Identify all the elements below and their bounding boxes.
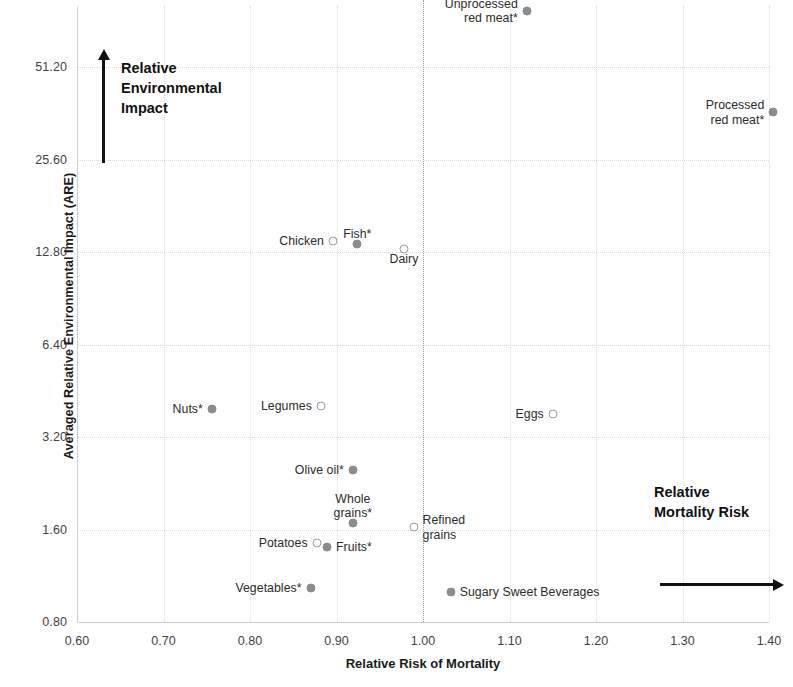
data-point-label: Unprocessed red meat* — [445, 0, 518, 25]
x-axis-tick-label: 0.70 — [129, 634, 199, 648]
gridline-vertical — [683, 6, 684, 622]
data-point-label: Fish* — [343, 227, 371, 242]
data-point-marker[interactable] — [522, 6, 531, 15]
environmental-impact-arrow-icon — [102, 58, 105, 163]
y-axis-tick-label: 3.20 — [5, 430, 67, 444]
data-point-label: Dairy — [390, 252, 419, 267]
data-point-label: Whole grains* — [334, 491, 373, 520]
x-axis-tick-label: 0.60 — [42, 634, 112, 648]
data-point-label: Olive oil* — [295, 463, 344, 478]
data-point-marker[interactable] — [323, 543, 332, 552]
environmental-impact-annotation: Relative Environmental Impact — [121, 58, 222, 118]
gridline-vertical — [510, 6, 511, 622]
y-axis-title: Averaged Relative Environmental Impact (… — [62, 173, 76, 460]
x-axis-tick-label: 0.90 — [302, 634, 372, 648]
y-axis-tick-label: 25.60 — [5, 153, 67, 167]
data-point-marker[interactable] — [306, 584, 315, 593]
x-axis-tick-label: 1.20 — [561, 634, 631, 648]
y-axis-tick-label: 12.80 — [5, 245, 67, 259]
data-point-marker[interactable] — [312, 538, 321, 547]
plot-area: Unprocessed red meat*Processed red meat*… — [77, 6, 769, 622]
gridline-vertical — [769, 6, 770, 622]
gridline-vertical — [77, 6, 78, 622]
x-axis-tick-label: 0.80 — [215, 634, 285, 648]
data-point-label: Potatoes — [259, 535, 308, 550]
x-axis-tick-label: 1.10 — [475, 634, 545, 648]
scatter-chart: Unprocessed red meat*Processed red meat*… — [0, 0, 793, 687]
data-point-label: Legumes — [261, 398, 312, 413]
mortality-risk-arrow-icon — [660, 583, 775, 586]
gridline-vertical — [596, 6, 597, 622]
mortality-risk-annotation: Relative Mortality Risk — [654, 482, 749, 522]
data-point-marker[interactable] — [548, 410, 557, 419]
data-point-label: Chicken — [279, 234, 324, 249]
x-axis-tick-label: 1.30 — [648, 634, 718, 648]
y-axis-tick-label: 0.80 — [5, 615, 67, 629]
data-point-marker[interactable] — [348, 465, 357, 474]
y-axis-tick-label: 1.60 — [5, 523, 67, 537]
gridline-vertical — [337, 6, 338, 622]
data-point-label: Fruits* — [336, 540, 372, 555]
y-axis-tick-label: 6.40 — [5, 338, 67, 352]
data-point-label: Refined grains — [423, 513, 466, 542]
data-point-marker[interactable] — [207, 404, 216, 413]
gridline-vertical — [250, 6, 251, 622]
x-axis-title: Relative Risk of Mortality — [77, 656, 769, 671]
data-point-label: Eggs — [516, 407, 544, 422]
data-point-label: Processed red meat* — [706, 98, 765, 127]
data-point-marker[interactable] — [316, 401, 325, 410]
data-point-label: Nuts* — [173, 402, 203, 417]
gridline-horizontal — [77, 622, 769, 623]
y-axis-tick-label: 51.20 — [5, 60, 67, 74]
data-point-marker[interactable] — [446, 588, 455, 597]
data-point-label: Sugary Sweet Beverages — [460, 585, 600, 600]
data-point-marker[interactable] — [409, 523, 418, 532]
x-axis-tick-label: 1.40 — [734, 634, 793, 648]
x-axis-tick-label: 1.00 — [388, 634, 458, 648]
data-point-label: Vegetables* — [235, 581, 301, 596]
data-point-marker[interactable] — [769, 108, 778, 117]
data-point-marker[interactable] — [329, 237, 338, 246]
